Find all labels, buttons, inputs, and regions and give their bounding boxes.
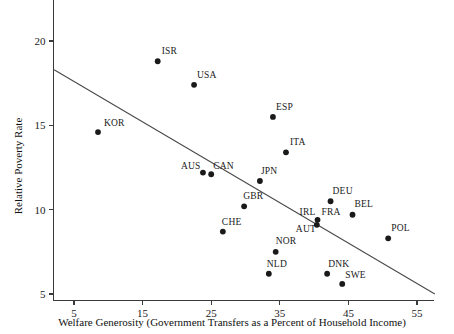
data-point-label: ESP — [276, 102, 293, 112]
data-point-label: POL — [391, 223, 410, 233]
x-tick-label: 55 — [412, 307, 424, 319]
data-point-label: NLD — [267, 259, 287, 269]
data-point[interactable] — [324, 271, 330, 277]
data-point[interactable] — [257, 178, 263, 184]
data-point[interactable] — [95, 129, 101, 135]
data-point[interactable] — [339, 281, 345, 287]
data-point-label: DNK — [328, 259, 349, 269]
data-point-label: USA — [197, 70, 217, 80]
data-point-label: AUS — [181, 161, 201, 171]
regression-line — [54, 70, 435, 294]
data-point-label: CHE — [222, 217, 242, 227]
data-point[interactable] — [315, 217, 321, 223]
data-point-label: IRL — [300, 207, 316, 217]
x-tick-label: 15 — [137, 307, 149, 319]
x-tick-label: 45 — [343, 307, 355, 319]
data-point[interactable] — [200, 170, 206, 176]
x-tick-label: 35 — [274, 307, 286, 319]
axes-group — [53, 0, 434, 301]
data-points-group — [95, 58, 391, 286]
data-point-label: KOR — [104, 118, 125, 128]
x-tick-label: 5 — [71, 307, 77, 319]
data-point-label: NOR — [276, 236, 297, 246]
data-point[interactable] — [266, 271, 272, 277]
scatter-chart-figure: 510152051525354555 KORISRUSAAUSCANCHEGBR… — [0, 0, 454, 334]
data-point-label: SWE — [345, 270, 366, 280]
tick-marks-group — [49, 41, 417, 305]
data-point-label: JPN — [261, 166, 277, 176]
point-labels-group: KORISRUSAAUSCANCHEGBRNLDJPNNORESPITAIRLF… — [104, 46, 410, 280]
data-point[interactable] — [191, 82, 197, 88]
data-point[interactable] — [350, 212, 356, 218]
data-point[interactable] — [328, 198, 334, 204]
data-point-label: AUT — [296, 224, 316, 234]
y-tick-label: 20 — [34, 35, 46, 47]
data-point[interactable] — [283, 149, 289, 155]
trend-line-group — [54, 70, 435, 294]
data-point[interactable] — [208, 171, 214, 177]
data-point[interactable] — [220, 229, 226, 235]
y-tick-label: 15 — [34, 119, 46, 131]
data-point-label: GBR — [243, 191, 264, 201]
data-point-label: ISR — [162, 46, 178, 56]
data-point[interactable] — [155, 58, 161, 64]
data-point[interactable] — [241, 203, 247, 209]
y-tick-label: 10 — [34, 204, 46, 216]
plot-canvas: 510152051525354555 KORISRUSAAUSCANCHEGBR… — [0, 0, 454, 334]
y-tick-label: 5 — [40, 288, 46, 300]
data-point-label: BEL — [355, 199, 374, 209]
data-point-label: CAN — [213, 161, 234, 171]
data-point-label: DEU — [333, 186, 353, 196]
data-point[interactable] — [273, 249, 279, 255]
data-point[interactable] — [270, 114, 276, 120]
x-tick-label: 25 — [206, 307, 218, 319]
data-point-label: ITA — [290, 137, 306, 147]
data-point-label: FRA — [322, 207, 341, 217]
y-axis-label: Relative Poverty Rate — [12, 86, 24, 246]
data-point[interactable] — [385, 235, 391, 241]
y-axis-label-wrapper: Relative Poverty Rate — [0, 0, 20, 334]
